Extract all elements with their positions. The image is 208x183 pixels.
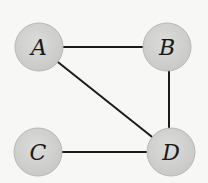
graph-diagram: A B C D (0, 0, 208, 183)
node-d-label: D (161, 140, 180, 165)
node-a: A (15, 23, 63, 71)
node-b: B (143, 23, 191, 71)
node-c-label: C (30, 140, 47, 165)
node-d: D (147, 128, 195, 176)
node-b-label: B (158, 35, 175, 60)
node-a-label: A (29, 35, 47, 60)
node-c: C (14, 128, 62, 176)
